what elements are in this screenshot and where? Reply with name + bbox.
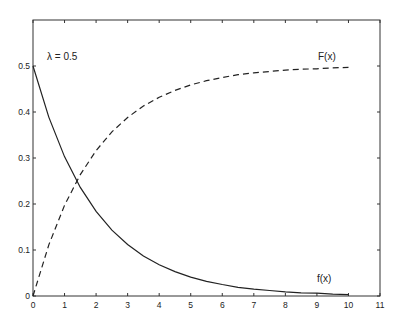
y-tick-label: 0.3 [18,153,30,163]
cdf-label: F(x) [318,51,336,62]
x-tick-label: 0 [31,300,36,310]
x-tick-label: 4 [157,300,162,310]
y-tick-label: 0.1 [18,245,30,255]
lambda-label: λ = 0.5 [47,51,78,62]
pdf-label: f(x) [317,273,331,284]
x-tick-label: 5 [188,300,193,310]
y-tick-label: 0.4 [18,107,30,117]
y-tick-label: 0.5 [18,61,30,71]
pdf-line-f [33,66,349,295]
y-tick-label: 0.2 [18,199,30,209]
x-tick-label: 6 [220,300,225,310]
x-tick-label: 3 [125,300,130,310]
x-tick-label: 1 [62,300,67,310]
x-tick-label: 7 [251,300,256,310]
x-tick-label: 9 [315,300,320,310]
x-tick-label: 10 [344,300,354,310]
x-axis-ticks: 01234567891011 [31,20,385,310]
y-axis-ticks: 00.10.20.30.40.5 [18,61,380,301]
exponential-distribution-chart: 01234567891011 00.10.20.30.40.5 λ = 0.5 … [0,0,399,321]
cdf-line-F [33,67,349,296]
x-tick-label: 8 [283,300,288,310]
x-tick-label: 2 [94,300,99,310]
y-tick-label: 0 [25,291,30,301]
x-tick-label: 11 [376,300,385,310]
